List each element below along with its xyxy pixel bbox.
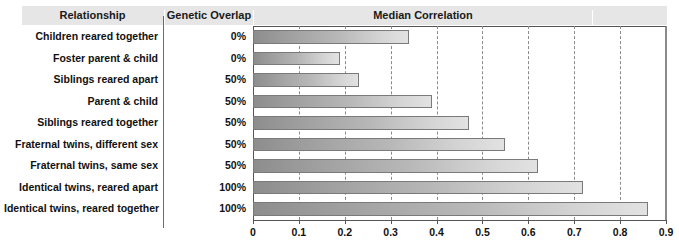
- x-tick-label: 0: [233, 226, 273, 238]
- table-row: Siblings reared apart50%: [0, 69, 679, 91]
- row-genetic-overlap-value: 50%: [168, 112, 246, 134]
- table-row: Foster parent & child0%: [0, 48, 679, 70]
- bar: [253, 95, 432, 109]
- row-genetic-overlap-value: 50%: [168, 134, 246, 156]
- x-tick-mark: [666, 220, 667, 224]
- row-relationship-label: Siblings reared apart: [4, 69, 158, 91]
- table-header-band: Relationship Genetic Overlap Median Corr…: [22, 6, 667, 25]
- table-row: Children reared together0%: [0, 26, 679, 48]
- row-relationship-label: Children reared together: [4, 26, 158, 48]
- bar: [253, 73, 359, 87]
- table-row: Fraternal twins, same sex50%: [0, 155, 679, 177]
- header-median-correlation: Median Correlation: [254, 6, 592, 25]
- x-axis-line: [253, 220, 667, 221]
- row-relationship-label: Fraternal twins, same sex: [4, 155, 158, 177]
- x-tick-mark: [299, 220, 300, 224]
- correlation-chart-figure: Relationship Genetic Overlap Median Corr…: [0, 0, 679, 246]
- x-tick-label: 0.7: [554, 226, 594, 238]
- x-tick-label: 0.3: [371, 226, 411, 238]
- bar: [253, 138, 505, 152]
- row-relationship-label: Identical twins, reared apart: [4, 177, 158, 199]
- table-rows: Children reared together0%Foster parent …: [0, 26, 679, 220]
- header-genetic-overlap: Genetic Overlap: [166, 6, 252, 25]
- x-tick-label: 0.4: [417, 226, 457, 238]
- x-tick-label: 0.2: [325, 226, 365, 238]
- row-genetic-overlap-value: 50%: [168, 69, 246, 91]
- x-tick-mark: [437, 220, 438, 224]
- x-tick-mark: [620, 220, 621, 224]
- row-genetic-overlap-value: 100%: [168, 198, 246, 220]
- table-row: Siblings reared together50%: [0, 112, 679, 134]
- header-relationship: Relationship: [22, 6, 163, 25]
- x-tick-label: 0.9: [646, 226, 679, 238]
- header-divider-3: [592, 10, 593, 25]
- bar: [253, 202, 648, 216]
- bar: [253, 181, 583, 195]
- table-row: Parent & child50%: [0, 91, 679, 113]
- row-genetic-overlap-value: 100%: [168, 177, 246, 199]
- bar: [253, 30, 409, 44]
- bar: [253, 159, 538, 173]
- x-tick-label: 0.1: [279, 226, 319, 238]
- x-tick-mark: [528, 220, 529, 224]
- row-relationship-label: Parent & child: [4, 91, 158, 113]
- x-tick-mark: [253, 220, 254, 224]
- x-tick-mark: [391, 220, 392, 224]
- table-row: Fraternal twins, different sex50%: [0, 134, 679, 156]
- row-relationship-label: Identical twins, reared together: [4, 198, 158, 220]
- x-tick-label: 0.8: [600, 226, 640, 238]
- header-divider-1: [164, 10, 165, 25]
- header-divider-2: [253, 10, 254, 25]
- row-relationship-label: Foster parent & child: [4, 48, 158, 70]
- table-row: Identical twins, reared apart100%: [0, 177, 679, 199]
- x-tick-label: 0.5: [462, 226, 502, 238]
- row-genetic-overlap-value: 0%: [168, 48, 246, 70]
- bar: [253, 52, 340, 66]
- row-relationship-label: Fraternal twins, different sex: [4, 134, 158, 156]
- row-genetic-overlap-value: 50%: [168, 155, 246, 177]
- x-tick-label: 0.6: [508, 226, 548, 238]
- x-tick-mark: [574, 220, 575, 224]
- row-genetic-overlap-value: 0%: [168, 26, 246, 48]
- bar: [253, 116, 469, 130]
- row-genetic-overlap-value: 50%: [168, 91, 246, 113]
- table-row: Identical twins, reared together100%: [0, 198, 679, 220]
- row-relationship-label: Siblings reared together: [4, 112, 158, 134]
- x-tick-mark: [345, 220, 346, 224]
- x-tick-mark: [482, 220, 483, 224]
